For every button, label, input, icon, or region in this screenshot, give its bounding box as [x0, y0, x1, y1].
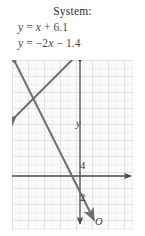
figure-caption: System: [0, 5, 145, 17]
y-tick-2: 2 [80, 192, 85, 203]
origin-label: O [95, 216, 103, 227]
coordinate-plane: y x O 4 2 −2 −2 2 [12, 60, 133, 230]
y-axis-label: y [76, 118, 81, 129]
equation-1: y = x + 6.1 [18, 21, 68, 33]
major-gridlines [12, 60, 133, 230]
equation-2: y = −2x − 1.4 [18, 37, 81, 49]
y-tick-4: 4 [80, 160, 85, 171]
system-of-equations-figure: System: y = x + 6.1 y = −2x − 1.4 [0, 0, 145, 236]
graph-canvas [12, 60, 133, 230]
